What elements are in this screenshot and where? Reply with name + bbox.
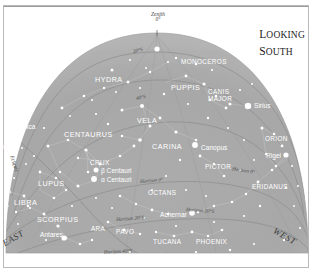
constellation-orion: ORION — [265, 136, 288, 142]
constellation-puppis: PUPPIS — [171, 84, 200, 91]
constellation-libra: LIBRA — [14, 199, 37, 206]
star-dot-beta-cen — [94, 168, 99, 173]
constellation-octans: OCTANS — [148, 190, 176, 196]
star-label-achernar: Achernar — [160, 212, 187, 219]
page-title: LOOKING SOUTH — [259, 24, 305, 59]
star-label-rigel: Rigel — [266, 153, 281, 160]
zenith-label: Zenith 0° — [137, 12, 179, 23]
constellation-carina: CARINA — [152, 143, 182, 150]
title-line-1: LOOKING — [259, 24, 305, 41]
constellation-hydra: HYDRA — [95, 76, 123, 83]
star-dot-canopus — [192, 142, 198, 148]
constellation-phoenix: PHOENIX — [196, 239, 227, 245]
constellation-ara: ARA — [91, 226, 105, 232]
constellation-tucana: TUCANA — [153, 239, 181, 245]
star-dot-rigel — [283, 152, 288, 157]
constellation-pictor: PICTOR — [205, 164, 231, 170]
star-chart-page: LOOKING SOUTH Zenith 0° 20°S 40°S Horizo… — [0, 0, 315, 273]
star-label-antares: Antares — [40, 232, 63, 239]
star-dot-spica — [9, 130, 14, 135]
constellation-scorpius: SCORPIUS — [37, 216, 79, 223]
constellation-eridanus: ERIDANUS — [252, 184, 288, 190]
constellation-centaurus: CENTAURUS — [64, 131, 113, 138]
star-label-canopus: Canopus — [201, 145, 227, 152]
constellation-pavo: PAVO — [116, 229, 134, 235]
star-dot-alpha-cen — [91, 176, 97, 182]
title-line-2: SOUTH — [259, 41, 305, 58]
star-dot-sirius — [245, 103, 251, 109]
constellation-vela: VELA — [137, 117, 157, 124]
star-label-spica: Spica — [19, 124, 36, 131]
constellation-monoceros: MONOCEROS — [181, 59, 227, 65]
constellation-virgo: VIRGO — [0, 145, 17, 151]
star-label-alpha-centauri: α Centauri — [101, 177, 132, 184]
star-label-sirius: Sirius — [254, 103, 271, 110]
constellation-lupus: LUPUS — [38, 180, 64, 187]
star-label-beta-centauri: β Centauri — [101, 168, 132, 175]
constellation-crux: CRUX — [90, 160, 110, 166]
constellation-canis-major2: MAJOR — [208, 96, 232, 102]
